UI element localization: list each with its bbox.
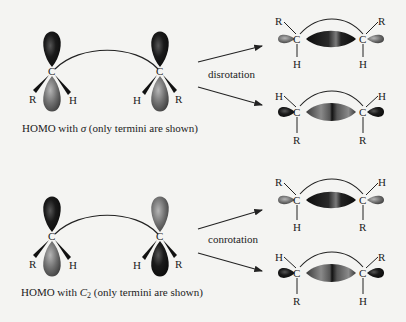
left-terminus: C R H	[29, 197, 77, 277]
bond	[366, 22, 378, 34]
atom-label: C	[293, 267, 300, 279]
p-orbital-bottom-lobe	[43, 241, 61, 277]
p-orbital-bottom-lobe	[151, 76, 169, 112]
substituent-label: H	[133, 259, 141, 271]
left-terminus: C R H	[29, 32, 77, 112]
backbone-arc	[55, 50, 158, 69]
atom-label: C	[359, 194, 366, 206]
conrotation-label: conrotation	[208, 233, 259, 245]
disrotation-arrows: disrotation	[198, 46, 262, 105]
substituent-label: R	[359, 221, 367, 233]
arrow-down	[198, 253, 262, 271]
end-lobe-right	[367, 268, 384, 278]
caption-c2: HOMO with C2 (only termini are shown)	[21, 286, 203, 300]
arrow-up	[198, 46, 262, 62]
substituent-label: R	[378, 15, 386, 27]
end-lobe-right	[367, 35, 384, 43]
substituent-label: R	[293, 295, 301, 307]
central-lobe	[306, 103, 356, 121]
substituent-label: H	[69, 259, 77, 271]
p-orbital-bottom-lobe	[151, 241, 169, 277]
product-disrot-2: C C H R H R	[275, 90, 386, 146]
substituent-label: H	[69, 94, 77, 106]
substituent-label: R	[275, 176, 283, 188]
substituent-label: R	[293, 134, 301, 146]
atom-label: C	[359, 33, 366, 45]
caption-sigma: HOMO with σ (only termini are shown)	[22, 122, 198, 135]
product-conrot-2: C C H R R H	[275, 251, 386, 307]
atom-label: C	[156, 65, 163, 77]
bond	[366, 183, 378, 195]
bond	[366, 96, 378, 107]
atom-label: C	[48, 65, 55, 77]
substituent-label: R	[29, 93, 37, 105]
substituent-label: R	[175, 93, 183, 105]
atom-label: C	[293, 106, 300, 118]
orbital-diagram: C R H C H R HOMO with σ (only termini ar…	[0, 0, 406, 322]
product-conrot-1: C C R H H R	[275, 176, 386, 233]
substituent-label: H	[275, 90, 283, 102]
substituent-label: H	[359, 295, 367, 307]
p-orbital-top-lobe	[43, 197, 61, 233]
reactant-sigma: C R H C H R HOMO with σ (only termini ar…	[22, 32, 198, 136]
substituent-label: H	[275, 251, 283, 263]
substituent-label: R	[175, 258, 183, 270]
arrow-up	[198, 210, 262, 229]
atom-label: C	[359, 106, 366, 118]
central-lobe	[306, 264, 356, 282]
reactant-c2: C R H C H R HOMO with C2 (only termini a…	[21, 197, 203, 301]
atom-label: C	[293, 33, 300, 45]
conrotation-arrows: conrotation	[198, 210, 262, 271]
central-lobe	[306, 31, 356, 48]
substituent-label: H	[293, 221, 301, 233]
substituent-label: H	[359, 58, 367, 70]
backbone-arc	[300, 179, 363, 194]
p-orbital-top-lobe	[151, 32, 169, 68]
atom-label: C	[156, 230, 163, 242]
p-orbital-top-lobe	[43, 32, 61, 68]
substituent-label: H	[378, 176, 386, 188]
p-orbital-top-lobe	[151, 197, 169, 233]
substituent-label: R	[275, 15, 283, 27]
substituent-label: R	[29, 258, 37, 270]
end-lobe-right	[367, 107, 384, 117]
substituent-label: H	[133, 94, 141, 106]
substituent-label: R	[359, 134, 367, 146]
right-terminus: C H R	[133, 197, 183, 277]
bond	[366, 257, 378, 268]
product-disrot-1: C C R H R H	[275, 15, 386, 70]
atom-label: C	[293, 194, 300, 206]
right-terminus: C H R	[133, 32, 183, 112]
disrotation-label: disrotation	[208, 68, 256, 80]
p-orbital-bottom-lobe	[43, 76, 61, 112]
backbone-arc	[55, 215, 158, 234]
arrow-down	[198, 87, 262, 105]
substituent-label: H	[378, 90, 386, 102]
substituent-label: H	[293, 58, 301, 70]
central-lobe	[306, 192, 356, 209]
atom-label: C	[359, 267, 366, 279]
substituent-label: R	[378, 251, 386, 263]
atom-label: C	[48, 230, 55, 242]
end-lobe-right	[367, 196, 384, 204]
